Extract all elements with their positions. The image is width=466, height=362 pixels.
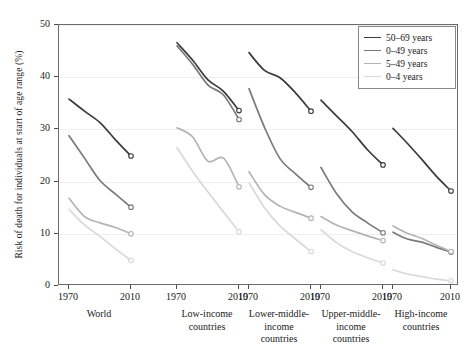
series-endpoint-2-1	[309, 185, 314, 190]
legend-label: 0–4 years	[386, 72, 423, 82]
series-line-0-0	[69, 99, 131, 156]
series-line-2-1	[249, 89, 311, 188]
x-tick-mark-4-1	[450, 285, 451, 289]
series-line-0-3	[69, 209, 131, 260]
x-tick-label-2-0: 1970	[226, 291, 270, 302]
series-line-4-1	[393, 232, 451, 252]
series-line-4-3	[393, 270, 451, 281]
x-tick-mark-2-0	[248, 285, 249, 289]
group-label-line: countries	[305, 333, 397, 346]
legend-swatch-icon	[364, 50, 381, 51]
series-endpoint-4-0	[449, 189, 454, 194]
y-tick-label-20: 20	[24, 175, 50, 186]
legend-label: 50–69 years	[386, 33, 432, 43]
x-tick-label-0-1: 2010	[108, 291, 152, 302]
x-tick-label-3-0: 1970	[298, 291, 342, 302]
y-axis-title: Risk of death for individuals at start o…	[14, 24, 30, 285]
series-endpoint-2-0	[309, 109, 314, 114]
legend: 50–69 years0–49 years5–49 years0–4 years	[358, 26, 456, 89]
x-tick-mark-0-0	[68, 285, 69, 289]
x-tick-mark-1-0	[176, 285, 177, 289]
x-tick-label-4-0: 1970	[370, 291, 414, 302]
series-endpoint-2-2	[309, 216, 314, 221]
x-tick-mark-3-0	[320, 285, 321, 289]
chart-root: Risk of death for individuals at start o…	[0, 0, 466, 362]
series-line-3-3	[321, 230, 383, 263]
y-tick-label-0: 0	[24, 279, 50, 290]
x-tick-mark-1-1	[238, 285, 239, 289]
legend-item-0[interactable]: 50–69 years	[364, 31, 450, 44]
series-endpoint-0-3	[129, 258, 134, 263]
series-endpoint-3-1	[381, 230, 386, 235]
series-endpoint-4-3	[449, 278, 454, 283]
series-endpoint-3-0	[381, 163, 386, 168]
group-label-4: High-incomecountries	[375, 308, 466, 333]
legend-swatch-icon	[364, 37, 381, 38]
x-tick-label-0-0: 1970	[46, 291, 90, 302]
series-endpoint-1-1	[237, 117, 242, 122]
series-endpoint-1-0	[237, 108, 242, 113]
x-tick-mark-0-1	[130, 285, 131, 289]
y-tick-label-50: 50	[24, 18, 50, 29]
series-line-3-1	[321, 168, 383, 233]
series-endpoint-3-2	[381, 238, 386, 243]
series-line-2-0	[249, 53, 311, 111]
group-label-line: countries	[375, 321, 466, 334]
series-line-2-3	[249, 183, 311, 252]
group-label-0: World	[53, 308, 145, 321]
legend-swatch-icon	[364, 63, 381, 64]
series-endpoint-2-3	[309, 249, 314, 254]
series-line-3-0	[321, 100, 383, 165]
group-label-line: World	[53, 308, 145, 321]
legend-item-1[interactable]: 0–49 years	[364, 44, 450, 57]
x-tick-mark-4-0	[392, 285, 393, 289]
y-tick-label-40: 40	[24, 70, 50, 81]
series-endpoint-4-2	[449, 249, 454, 254]
legend-swatch-icon	[364, 76, 381, 77]
series-endpoint-0-0	[129, 154, 134, 159]
series-line-4-2	[393, 226, 451, 252]
x-tick-label-4-1: 2010	[428, 291, 466, 302]
series-endpoint-3-3	[381, 261, 386, 266]
series-endpoint-0-2	[129, 232, 134, 237]
y-tick-mark-0	[54, 285, 58, 286]
group-label-line: High-income	[375, 308, 466, 321]
x-tick-label-1-0: 1970	[154, 291, 198, 302]
y-tick-label-10: 10	[24, 227, 50, 238]
legend-item-3[interactable]: 0–4 years	[364, 70, 450, 83]
y-tick-label-30: 30	[24, 122, 50, 133]
series-line-4-0	[393, 128, 451, 191]
legend-label: 5–49 years	[386, 59, 427, 69]
series-line-1-0	[177, 43, 239, 111]
series-endpoint-0-1	[129, 205, 134, 210]
x-tick-mark-3-1	[382, 285, 383, 289]
series-line-0-2	[69, 198, 131, 234]
x-tick-mark-2-1	[310, 285, 311, 289]
series-line-1-2	[177, 128, 239, 187]
series-endpoint-1-2	[237, 185, 242, 190]
legend-label: 0–49 years	[386, 46, 427, 56]
legend-item-2[interactable]: 5–49 years	[364, 57, 450, 70]
series-line-1-1	[177, 46, 239, 120]
series-endpoint-1-3	[237, 229, 242, 234]
